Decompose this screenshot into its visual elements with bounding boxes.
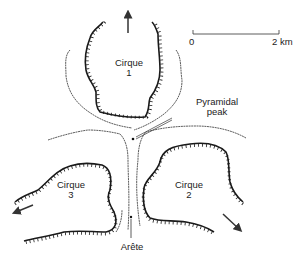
arrow-southeast-icon [223,214,239,229]
scale-end-label: 2 km [272,37,293,47]
diagram-canvas [0,0,306,260]
cirque-2-number: 2 [170,190,208,200]
scale-bar [193,30,279,34]
cirque-2-label: Cirque 2 [170,180,208,200]
cirque-3-number: 3 [52,190,90,200]
cirque-3-headwall [15,163,116,243]
pyramidal-peak-point [132,138,135,141]
arrow-southwest-icon [16,205,33,212]
cirque-1-label: Cirque 1 [110,58,148,78]
cirque-diagram: 0 2 km Cirque 1 Cirque 3 Cirque 2 Pyrami… [0,0,306,260]
pyramidal-peak-label: Pyramidal peak [192,97,242,117]
cirque-3-label: Cirque 3 [52,180,90,200]
arete-point [130,216,132,218]
cirque-1-number: 1 [110,68,148,78]
arete-label: Arête [117,242,147,252]
scale-start-label: 0 [189,37,194,47]
